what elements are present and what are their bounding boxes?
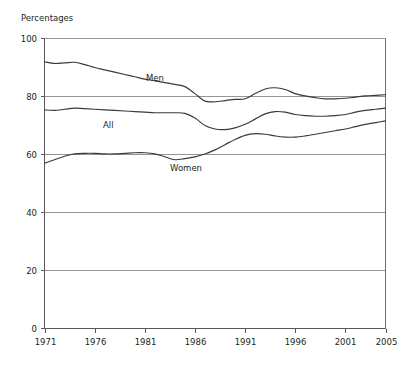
x-tick-marks xyxy=(46,329,387,333)
y-tick-label-80: 80 xyxy=(26,92,37,102)
series-line-all xyxy=(45,108,386,130)
x-tick-label-2001: 2001 xyxy=(335,337,357,347)
x-tick-label-1991: 1991 xyxy=(235,337,257,347)
gridlines-group xyxy=(45,39,386,271)
x-tick-label-1986: 1986 xyxy=(185,337,207,347)
x-tick-label-1996: 1996 xyxy=(285,337,307,347)
y-tick-labels: 100 80 60 40 20 0 xyxy=(21,34,37,334)
series-label-all: All xyxy=(103,120,114,130)
y-tick-label-0: 0 xyxy=(32,324,37,334)
x-tick-label-2005: 2005 xyxy=(376,337,398,347)
y-tick-label-20: 20 xyxy=(26,266,37,276)
x-tick-label-1981: 1981 xyxy=(135,337,157,347)
chart-canvas: 100 80 60 40 20 0 1971197619811986199119… xyxy=(0,0,411,365)
line-chart: 100 80 60 40 20 0 1971197619811986199119… xyxy=(0,0,411,365)
y-tick-label-40: 40 xyxy=(26,208,37,218)
series-label-women: Women xyxy=(170,163,202,173)
x-tick-label-1971: 1971 xyxy=(35,337,57,347)
x-tick-labels: 19711976198119861991199620012005 xyxy=(35,337,398,347)
y-tick-label-60: 60 xyxy=(26,150,37,160)
series-lines-group xyxy=(45,62,386,164)
y-axis-title: Percentages xyxy=(21,13,74,23)
x-tick-label-1976: 1976 xyxy=(85,337,107,347)
series-line-women xyxy=(45,121,386,163)
series-line-men xyxy=(45,62,386,102)
y-tick-marks xyxy=(41,39,45,329)
series-label-men: Men xyxy=(146,73,164,83)
y-tick-label-100: 100 xyxy=(21,34,37,44)
